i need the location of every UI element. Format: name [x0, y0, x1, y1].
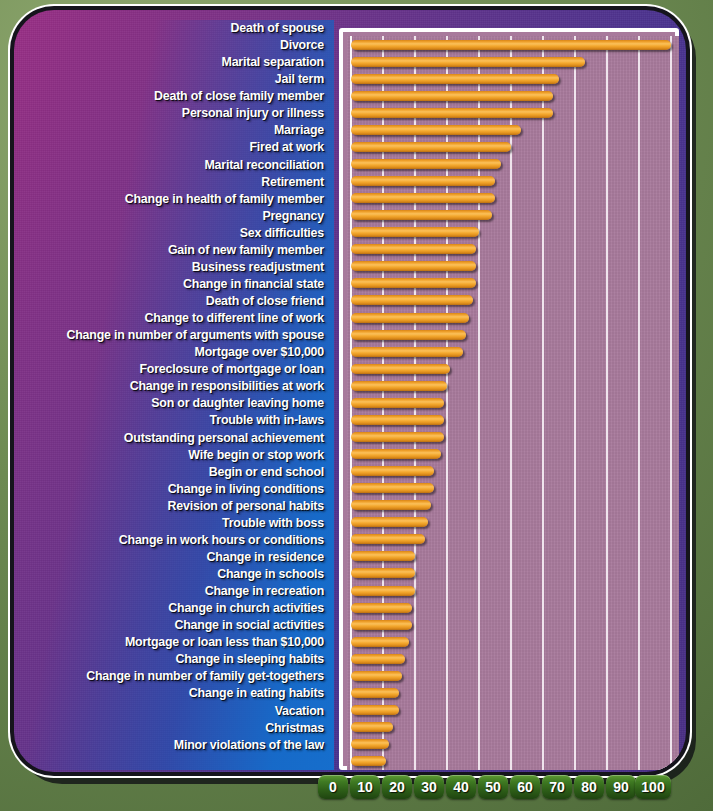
category-label: Trouble with boss: [22, 515, 328, 532]
chart-card: Death of spouseDivorceMarital separation…: [14, 10, 686, 772]
category-label: Jail term: [22, 71, 328, 88]
category-label: Change in residence: [22, 549, 328, 566]
x-axis-tick-20: 20: [382, 775, 412, 799]
bar-row: [347, 87, 679, 104]
bar: [351, 620, 412, 630]
bar: [351, 142, 511, 152]
bar: [351, 756, 386, 766]
bar: [351, 91, 553, 101]
category-label: Death of close friend: [22, 293, 328, 310]
bar-row: [347, 497, 679, 514]
category-label: Divorce: [22, 37, 328, 54]
category-label: Change in financial state: [22, 276, 328, 293]
bar: [351, 586, 415, 596]
bar-row: [347, 394, 679, 411]
bar: [351, 364, 450, 374]
bar-row: [347, 599, 679, 616]
bar-row: [347, 241, 679, 258]
bar: [351, 347, 463, 357]
category-label: Foreclosure of mortgage or loan: [22, 361, 328, 378]
x-axis-tick-10: 10: [350, 775, 380, 799]
bar-row: [347, 633, 679, 650]
category-label: Mortgage over $10,000: [22, 344, 328, 361]
bar: [351, 483, 434, 493]
bar: [351, 722, 393, 732]
category-label: Change in recreation: [22, 583, 328, 600]
category-label: Change in number of family get-togethers: [22, 668, 328, 685]
category-label: Vacation: [22, 703, 328, 720]
bar-row: [347, 514, 679, 531]
bar: [351, 637, 409, 647]
bar-row: [347, 531, 679, 548]
category-label: Wife begin or stop work: [22, 447, 328, 464]
bar: [351, 227, 479, 237]
category-label: Trouble with in-laws: [22, 412, 328, 429]
bar-row: [347, 411, 679, 428]
category-label: Change to different line of work: [22, 310, 328, 327]
category-label: Fired at work: [22, 139, 328, 156]
bar: [351, 210, 492, 220]
category-label: Change in schools: [22, 566, 328, 583]
category-label: Mortgage or loan less than $10,000: [22, 634, 328, 651]
bar-row: [347, 173, 679, 190]
bar: [351, 739, 389, 749]
bar-row: [347, 582, 679, 599]
bar-row: [347, 428, 679, 445]
bar: [351, 449, 441, 459]
bar: [351, 500, 431, 510]
bar-row: [347, 343, 679, 360]
bar-row: [347, 70, 679, 87]
bar-row: [347, 53, 679, 70]
bar: [351, 551, 415, 561]
bar-row: [347, 650, 679, 667]
category-label: Outstanding personal achievement: [22, 430, 328, 447]
category-label: Change in sleeping habits: [22, 651, 328, 668]
bar: [351, 415, 444, 425]
bar: [351, 517, 428, 527]
plot-frame: [339, 28, 679, 770]
bar-row: [347, 565, 679, 582]
x-axis-tick-90: 90: [606, 775, 636, 799]
x-axis-tick-80: 80: [574, 775, 604, 799]
bar: [351, 330, 466, 340]
bar: [351, 603, 412, 613]
bar: [351, 313, 469, 323]
bar-row: [347, 736, 679, 753]
category-label: Change in health of family member: [22, 191, 328, 208]
bar-row: [347, 377, 679, 394]
x-axis-tick-30: 30: [414, 775, 444, 799]
x-axis-tick-0: 0: [318, 775, 348, 799]
category-label: Marital separation: [22, 54, 328, 71]
bar-row: [347, 292, 679, 309]
category-label: Change in living conditions: [22, 481, 328, 498]
bar: [351, 261, 476, 271]
bar-row: [347, 480, 679, 497]
category-label: Change in number of arguments with spous…: [22, 327, 328, 344]
category-label: Change in work hours or conditions: [22, 532, 328, 549]
category-label: Marriage: [22, 122, 328, 139]
bar: [351, 108, 553, 118]
bar: [351, 671, 402, 681]
bar-row: [347, 548, 679, 565]
category-label: Begin or end school: [22, 464, 328, 481]
category-label: Son or daughter leaving home: [22, 395, 328, 412]
bar: [351, 398, 444, 408]
x-axis-tick-60: 60: [510, 775, 540, 799]
bar-row: [347, 719, 679, 736]
category-label: Personal injury or illness: [22, 105, 328, 122]
bar: [351, 568, 415, 578]
category-label: Change in church activities: [22, 600, 328, 617]
category-label: Change in responsibilities at work: [22, 378, 328, 395]
bar: [351, 278, 476, 288]
bar-row: [347, 360, 679, 377]
bar-row: [347, 753, 679, 770]
category-label: Change in social activities: [22, 617, 328, 634]
x-axis-tick-100: 100: [635, 775, 671, 799]
bar-row: [347, 190, 679, 207]
category-label: Retirement: [22, 174, 328, 191]
bar-row: [347, 463, 679, 480]
bar: [351, 705, 399, 715]
bar-row: [347, 36, 679, 53]
bar: [351, 159, 501, 169]
bar: [351, 244, 476, 254]
